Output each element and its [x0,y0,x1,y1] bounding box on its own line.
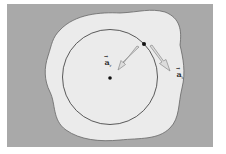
acceleration-diagram: → a r → a t [0,0,226,154]
center-point [108,76,112,80]
particle-point [142,42,146,46]
radial-subscript: r [110,63,112,68]
